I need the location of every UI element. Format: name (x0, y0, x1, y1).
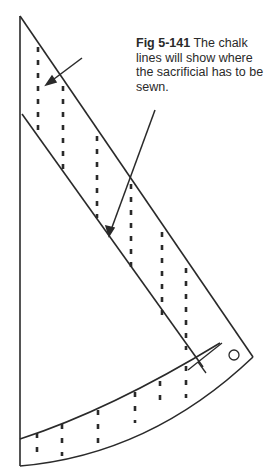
arrow-to-chalk-line-lower (111, 110, 155, 230)
figure-label: Fig 5-141 (136, 36, 190, 50)
clew-cross-line (188, 343, 222, 370)
sail-foot-edge (20, 357, 253, 466)
clew-tick-line (198, 362, 206, 373)
sacrificial-inner-line-foot (20, 343, 220, 439)
arrowhead-lower-icon (106, 226, 114, 236)
figure-caption: Fig 5-141 The chalk lines will show wher… (136, 36, 268, 94)
arrowhead-upper-icon (46, 76, 56, 85)
arrow-to-chalk-line-upper (50, 58, 82, 82)
grommet-icon (229, 350, 239, 360)
